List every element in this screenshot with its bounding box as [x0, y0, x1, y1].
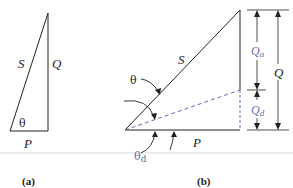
arrow-up-icon — [152, 131, 158, 137]
arrow-head-icon — [155, 88, 161, 95]
figure-b: S θ P Q Qa Qd θd (b) — [124, 10, 289, 188]
hypotenuse-s-b — [125, 10, 240, 130]
caption-a: (a) — [22, 175, 35, 188]
label-qd: Qd — [251, 103, 265, 118]
theta-arc — [124, 101, 154, 117]
label-s-b: S — [178, 52, 185, 67]
arrow-down-icon — [254, 83, 260, 90]
label-theta-b: θ — [130, 74, 137, 87]
label-qa: Qa — [251, 44, 265, 59]
arrow-up-icon — [254, 10, 260, 17]
arrow-down-icon — [275, 123, 281, 130]
label-s-a: S — [18, 56, 25, 71]
triangle-a — [10, 13, 48, 131]
label-p-a: P — [23, 136, 32, 151]
label-q-total: Q — [274, 65, 284, 80]
caption-b: (b) — [197, 175, 211, 188]
arrow-up-icon — [171, 131, 177, 137]
figure-a: S Q θ P (a) — [10, 13, 62, 188]
displacement-line — [125, 90, 240, 130]
arrow-head-icon — [151, 113, 157, 120]
label-p-b: P — [192, 135, 201, 150]
arrow-down-icon — [254, 123, 260, 130]
power-triangle-diagram: S Q θ P (a) S θ P — [0, 0, 293, 188]
label-q-a: Q — [52, 56, 62, 71]
label-theta-a: θ — [19, 117, 26, 130]
label-theta-d: θd — [134, 150, 147, 164]
